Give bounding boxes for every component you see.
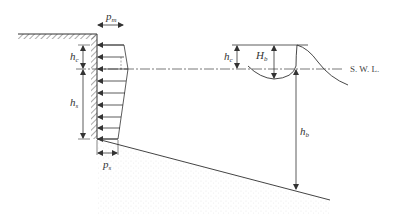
swl-label: S. W. L.	[350, 64, 379, 74]
hb-label: hb	[300, 125, 310, 139]
pressure-distribution-lower	[97, 69, 128, 139]
hb-dimension: hb	[296, 70, 310, 189]
pressure-distribution-upper	[97, 45, 128, 69]
hc-wall-label: hc	[70, 50, 80, 64]
Hb-dimension: Hb	[255, 46, 274, 78]
hs-dimension: hs	[70, 70, 90, 139]
sloping-seabed	[97, 139, 330, 214]
hc-wave-label: hc	[224, 50, 234, 64]
vertical-wall	[91, 34, 97, 139]
pm-label: pm	[105, 10, 117, 24]
Hb-label: Hb	[255, 49, 268, 63]
pm-dimension: pm	[98, 10, 123, 25]
hc-wall-dimension: hc	[70, 45, 90, 68]
hs-label: hs	[70, 96, 79, 110]
ground-surface	[18, 34, 97, 39]
hc-wave-dimension: hc	[224, 46, 237, 68]
wave-pressure-diagram: pm ps hc hs hc Hb hb S. W. L.	[0, 0, 398, 214]
breaking-wave-profile	[232, 45, 348, 85]
